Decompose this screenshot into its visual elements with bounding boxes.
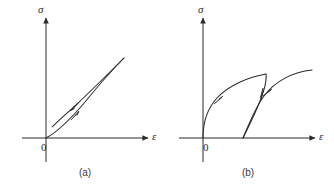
panel-b-plot — [167, 0, 334, 194]
panel-b-caption: (b) — [223, 168, 273, 178]
panel-b-y-axis-label: σ — [198, 4, 203, 15]
panel-a: σ ε 0 (a) — [0, 0, 167, 194]
panel-b-origin-label: 0 — [203, 142, 209, 153]
panel-a-unloading-branch — [52, 58, 124, 127]
panel-a-origin-label: 0 — [41, 142, 47, 153]
panel-b: σ ε 0 (b) — [167, 0, 334, 194]
panel-a-loading-arrowhead — [71, 111, 79, 120]
panel-b-unloading-line — [243, 74, 266, 138]
panel-b-loading-curve — [203, 74, 266, 138]
stress-strain-figure: σ ε 0 (a) — [0, 0, 334, 194]
panel-b-reloading-curve — [243, 70, 312, 138]
panel-a-plot — [0, 0, 167, 194]
panel-a-y-axis-label: σ — [38, 4, 43, 15]
panel-b-x-axis-label: ε — [319, 131, 323, 142]
panel-a-caption: (a) — [60, 168, 110, 178]
panel-a-x-axis-label: ε — [152, 131, 156, 142]
